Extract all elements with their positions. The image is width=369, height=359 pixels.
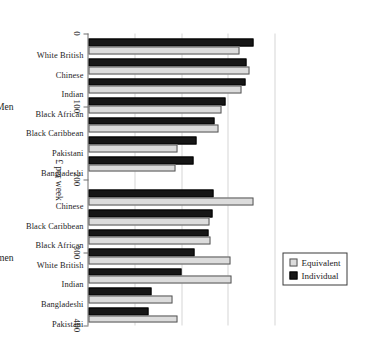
bar-equivalent bbox=[88, 295, 172, 303]
bar-individual bbox=[88, 38, 253, 46]
bar-equivalent bbox=[88, 46, 239, 54]
bar-individual bbox=[88, 97, 225, 105]
bar-individual bbox=[88, 229, 208, 237]
bar-equivalent bbox=[88, 105, 221, 113]
tick-mark bbox=[83, 106, 88, 107]
legend-swatch-individual-icon bbox=[289, 271, 297, 279]
bar-individual bbox=[88, 248, 194, 256]
group-label-women: Women bbox=[0, 251, 13, 262]
tick-mark bbox=[83, 33, 88, 34]
bar-equivalent bbox=[88, 66, 249, 74]
bar-equivalent bbox=[88, 197, 253, 205]
bar-individual bbox=[88, 78, 245, 86]
chart-legend: Equivalent Individual bbox=[282, 252, 347, 285]
category-label: Indian bbox=[61, 90, 83, 99]
bar-equivalent bbox=[88, 85, 241, 93]
bar-equivalent bbox=[88, 164, 175, 172]
bar-individual bbox=[88, 189, 213, 197]
bar-equivalent bbox=[88, 236, 210, 244]
tick-mark bbox=[83, 252, 88, 253]
value-axis-title: £ per week bbox=[53, 0, 63, 359]
bar-equivalent bbox=[88, 217, 209, 225]
category-label: Indian bbox=[61, 280, 83, 289]
bar-individual bbox=[88, 156, 193, 164]
bar-equivalent bbox=[88, 124, 218, 132]
chart-plot-wrapper: 0100200300400 White BritishChineseIndian… bbox=[0, 0, 369, 359]
bar-individual bbox=[88, 58, 246, 66]
tick-label: 0 bbox=[71, 18, 81, 48]
legend-item-equivalent: Equivalent bbox=[289, 257, 340, 267]
group-label-men: Men bbox=[0, 100, 13, 111]
category-axis-labels: White BritishChineseIndianBlack AfricanB… bbox=[82, 33, 83, 325]
bar-individual bbox=[88, 209, 212, 217]
legend-label-individual: Individual bbox=[301, 270, 338, 280]
bar-individual bbox=[88, 287, 151, 295]
bar-equivalent bbox=[88, 144, 177, 152]
legend-label-equivalent: Equivalent bbox=[301, 257, 340, 267]
bar-equivalent bbox=[88, 256, 230, 264]
bar-equivalent bbox=[88, 315, 177, 323]
gridline bbox=[274, 33, 275, 325]
chart-plot-area bbox=[88, 33, 274, 325]
bar-individual bbox=[88, 136, 196, 144]
bar-individual bbox=[88, 307, 148, 315]
tick-mark bbox=[83, 179, 88, 180]
bar-equivalent bbox=[88, 275, 231, 283]
bar-individual bbox=[88, 268, 181, 276]
legend-swatch-equivalent-icon bbox=[289, 258, 297, 266]
legend-item-individual: Individual bbox=[289, 270, 340, 280]
chart-figure: 0100200300400 White BritishChineseIndian… bbox=[0, 0, 369, 359]
bar-individual bbox=[88, 117, 214, 125]
